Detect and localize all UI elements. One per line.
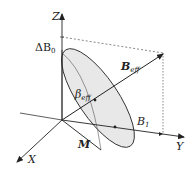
magnetization-vector-diagram: Z Y X ΔB0 Beff βeff B1 M [0,0,196,178]
m-label: M [77,138,91,151]
x-axis [17,120,62,162]
b1-label: B1 [136,115,150,129]
b1-point [114,126,117,129]
x-axis-label: X [27,153,37,166]
delta-b0-label: ΔB0 [35,41,56,55]
precession-ellipse [49,39,147,158]
y-axis-back [20,113,62,120]
y-arrow-mark [159,132,163,136]
beta-eff-point [94,99,97,102]
y-axis-label: Y [176,140,185,153]
z-axis-label: Z [51,10,60,23]
b-eff-label: Beff [120,60,140,74]
